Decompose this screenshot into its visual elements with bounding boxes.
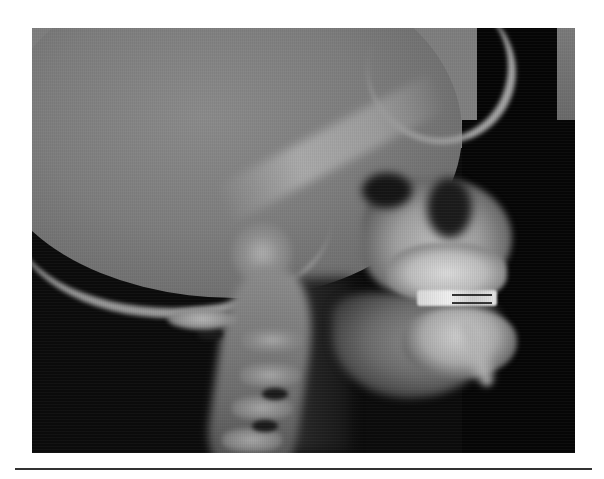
film-grain — [32, 28, 575, 453]
cephalometric-radiograph — [32, 28, 575, 453]
horizontal-rule — [15, 468, 592, 470]
